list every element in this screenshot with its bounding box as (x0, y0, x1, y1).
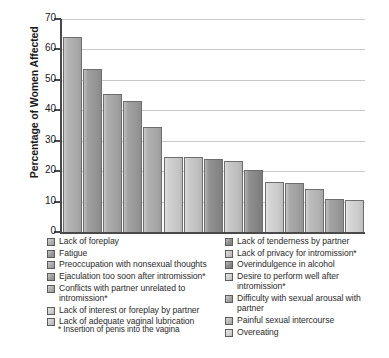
legend-item: Fatigue (47, 248, 217, 258)
bar-shading (64, 38, 81, 232)
chart-figure: Percentage of Women Affected 70605040302… (0, 0, 389, 358)
bar-shading (185, 158, 202, 232)
legend-item: Ejaculation too soon after intromission* (47, 271, 217, 281)
legend-swatch (47, 273, 55, 281)
x-axis-line (60, 232, 365, 234)
legend-swatch (225, 238, 233, 246)
legend-item: Preoccupation with nonsexual thoughts (47, 259, 217, 269)
bar-shading (84, 70, 101, 232)
legend-item: Lack of foreplay (47, 236, 217, 246)
plot-area: 706050403020100 (60, 19, 365, 232)
legend-swatch (47, 261, 55, 269)
bar (305, 189, 324, 232)
bar-shading (306, 190, 323, 232)
legend-swatch (47, 250, 55, 258)
y-tick-label: 50 (30, 73, 56, 84)
bar-shading (326, 200, 343, 232)
bar-shading (165, 158, 182, 232)
bar (103, 94, 122, 232)
legend-column-left: Lack of foreplayFatiguePreoccupation wit… (47, 236, 217, 328)
bar-shading (225, 162, 242, 232)
legend-label: Fatigue (59, 248, 87, 258)
legend-item: Lack of interest or foreplay by partner (47, 305, 217, 315)
legend-swatch (225, 329, 233, 337)
legend-item: Difficulty with sexual arousal with part… (225, 293, 389, 313)
bar-shading (205, 160, 222, 232)
legend-label: Lack of foreplay (59, 236, 119, 246)
bar-shading (245, 171, 262, 232)
bar-series (62, 19, 365, 232)
legend-swatch (225, 317, 233, 325)
bar (265, 182, 284, 232)
y-tick-label: 60 (30, 42, 56, 53)
legend-label: Difficulty with sexual arousal with part… (237, 293, 389, 313)
legend: Lack of foreplayFatiguePreoccupation wit… (47, 236, 389, 326)
bar (63, 37, 82, 232)
legend-item: Conflicts with partner unrelated to intr… (47, 283, 217, 303)
legend-label: Ejaculation too soon after intromission* (59, 271, 206, 281)
legend-label: Painful sexual intercourse (237, 315, 334, 325)
bar (285, 183, 304, 232)
bar (204, 159, 223, 232)
bar (325, 199, 344, 232)
legend-swatch (225, 250, 233, 258)
bar (184, 157, 203, 232)
legend-swatch (225, 295, 233, 303)
legend-item: Painful sexual intercourse (225, 315, 389, 325)
legend-label: Lack of interest or foreplay by partner (59, 305, 199, 315)
legend-item: Desire to perform well after intromissio… (225, 271, 389, 291)
bar (123, 101, 142, 232)
legend-swatch (47, 307, 55, 315)
bar (164, 157, 183, 232)
legend-item: Lack of privacy for intromission* (225, 248, 389, 258)
bar-shading (104, 95, 121, 232)
legend-swatch (47, 318, 55, 326)
legend-label: Preoccupation with nonsexual thoughts (59, 259, 207, 269)
footnote: * Insertion of penis into the vagina (58, 325, 180, 334)
bar-shading (124, 102, 141, 232)
legend-swatch (225, 261, 233, 269)
y-tick-label: 70 (30, 12, 56, 23)
legend-label: Overindulgence in alcohol (237, 259, 335, 269)
legend-label: Conflicts with partner unrelated to intr… (59, 283, 217, 303)
bar (143, 127, 162, 232)
legend-item: Overeating (225, 327, 389, 337)
legend-swatch (47, 238, 55, 246)
y-tick-label: 40 (30, 103, 56, 114)
bar-shading (286, 184, 303, 232)
bar (224, 161, 243, 232)
y-tick-label: 20 (30, 164, 56, 175)
legend-label: Desire to perform well after intromissio… (237, 271, 389, 291)
legend-item: Lack of tenderness by partner (225, 236, 389, 246)
bar-shading (346, 201, 363, 232)
legend-label: Lack of privacy for intromission* (237, 248, 357, 258)
bar-shading (266, 183, 283, 232)
legend-column-right: Lack of tenderness by partnerLack of pri… (225, 236, 389, 338)
legend-swatch (225, 273, 233, 281)
legend-label: Overeating (237, 327, 279, 337)
bar (345, 200, 364, 232)
y-tick-label: 0 (30, 225, 56, 236)
y-tick-label: 30 (30, 134, 56, 145)
legend-label: Lack of tenderness by partner (237, 236, 349, 246)
bar-shading (144, 128, 161, 232)
bar (83, 69, 102, 232)
y-tick-label: 10 (30, 195, 56, 206)
bar (244, 170, 263, 232)
legend-item: Overindulgence in alcohol (225, 259, 389, 269)
legend-swatch (47, 285, 55, 293)
